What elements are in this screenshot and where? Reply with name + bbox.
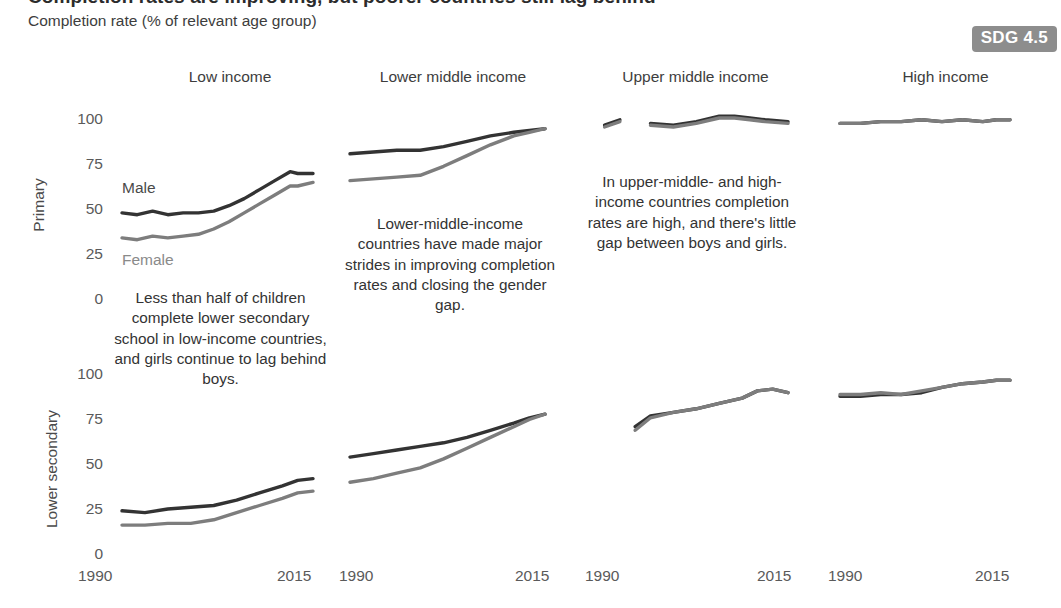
- figure-root: Completion rates are improving, but poor…: [0, 0, 1061, 608]
- series-line-male: [635, 389, 788, 427]
- series-line-male: [350, 414, 545, 457]
- series-line-male: [350, 129, 545, 154]
- plot-lines: [0, 0, 1061, 608]
- series-line-male: [122, 172, 313, 215]
- series-line-female: [122, 491, 313, 525]
- series-line-female: [635, 389, 788, 430]
- series-line-female: [350, 129, 545, 181]
- series-line-female: [350, 414, 545, 482]
- series-line-female: [840, 120, 1010, 124]
- series-line-male: [122, 479, 313, 513]
